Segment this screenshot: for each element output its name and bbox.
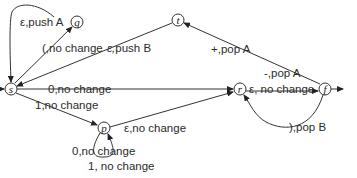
label-s-r: 0,no change: [48, 83, 111, 95]
state-s-label: s: [9, 83, 13, 95]
edge-s-q: [15, 27, 72, 83]
label-f-t-minus: -,pop A: [264, 67, 301, 79]
label-q-s: ε,push A: [20, 16, 64, 28]
label-s-q: (,no change: [42, 42, 103, 54]
edge-t-s: [17, 23, 172, 86]
pda-diagram: s q t p r f ε,push A (,no change ε,push …: [0, 0, 357, 178]
label-p-loop0: 0,no change: [72, 145, 135, 157]
label-s-p: 1,no change: [35, 99, 98, 111]
state-q-label: q: [74, 16, 80, 28]
label-p-r: ε,no change: [124, 122, 186, 134]
label-p-loop1: 1, no change: [88, 160, 155, 172]
state-p-label: p: [100, 122, 107, 134]
state-r-label: r: [238, 83, 243, 95]
label-r-f: ε, no change: [249, 83, 314, 95]
label-t-s: ε,push B: [107, 42, 151, 54]
label-f-r: ),pop B: [289, 121, 326, 133]
label-f-t-plus: +,pop A: [211, 43, 251, 55]
